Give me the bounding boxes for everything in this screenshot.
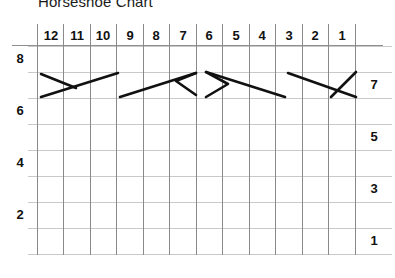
- horseshoe-chart: Horseshoe Chart 12 11 10 9 8 7 6 5 4 3 2…: [0, 0, 395, 278]
- trace-segment-4-chord: [288, 73, 356, 97]
- horizontal-gridlines: [28, 47, 392, 255]
- chart-grid-and-plot: [0, 0, 395, 278]
- trace-segment-1-lower: [41, 73, 118, 97]
- plot-trace: [41, 72, 356, 97]
- trace-segment-3-chord: [206, 72, 285, 97]
- vertical-gridlines: [38, 24, 356, 255]
- trace-segment-2-vee: [176, 73, 196, 95]
- trace-segment-1-upper: [41, 74, 76, 88]
